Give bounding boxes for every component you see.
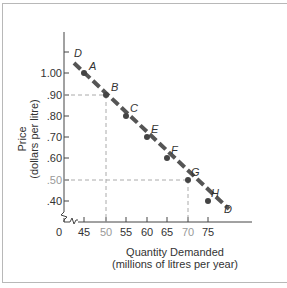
- svg-text:.60: .60: [47, 152, 62, 164]
- x-axis-break: [70, 218, 78, 224]
- svg-text:.70: .70: [47, 131, 62, 143]
- svg-text:1.00: 1.00: [41, 67, 62, 79]
- svg-text:B: B: [111, 81, 118, 93]
- svg-text:.80: .80: [47, 110, 62, 122]
- demand-curve: [74, 63, 229, 209]
- svg-text:.90: .90: [47, 89, 62, 101]
- y-ticks: [64, 52, 69, 201]
- demand-chart: 1.00 .90 .80 .70 .60 .50 .40 0 45 50 55 …: [0, 0, 287, 288]
- svg-text:D: D: [224, 203, 232, 215]
- svg-text:H: H: [211, 187, 219, 199]
- svg-text:45: 45: [78, 226, 90, 238]
- data-points: [81, 70, 211, 204]
- svg-text:G: G: [191, 166, 200, 178]
- svg-text:75: 75: [202, 226, 214, 238]
- svg-text:65: 65: [161, 226, 173, 238]
- svg-text:70: 70: [182, 226, 194, 238]
- svg-text:50: 50: [100, 226, 112, 238]
- y-tick-labels: 1.00 .90 .80 .70 .60 .50 .40: [41, 67, 62, 207]
- svg-text:D: D: [74, 47, 82, 59]
- svg-text:.40: .40: [47, 195, 62, 207]
- svg-text:60: 60: [141, 226, 153, 238]
- svg-text:A: A: [88, 60, 96, 72]
- x-axis-title-main: Quantity Demanded: [90, 246, 260, 258]
- svg-text:0: 0: [56, 226, 62, 238]
- y-axis-title-main: Price: [16, 79, 28, 199]
- x-ticks: [84, 217, 208, 222]
- x-axis-title-sub: (millions of litres per year): [90, 258, 260, 270]
- y-axis-break: [61, 212, 67, 222]
- x-tick-labels: 0 45 50 55 60 65 70 75: [56, 226, 214, 238]
- y-axis-title: Price (dollars per litre): [16, 79, 40, 199]
- svg-text:55: 55: [120, 226, 132, 238]
- svg-text:C: C: [130, 102, 138, 114]
- svg-text:E: E: [151, 123, 159, 135]
- svg-text:F: F: [171, 144, 179, 156]
- y-axis-title-sub: (dollars per litre): [28, 79, 40, 199]
- x-axis-title: Quantity Demanded (millions of litres pe…: [90, 246, 260, 270]
- svg-text:.50: .50: [47, 174, 62, 186]
